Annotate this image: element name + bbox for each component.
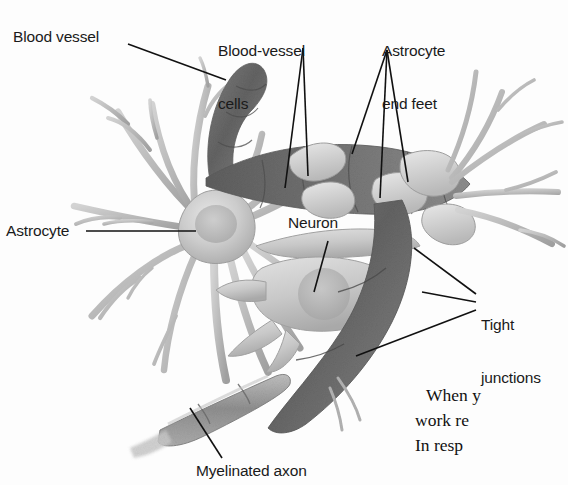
axon-tail-fade [130, 430, 172, 458]
label-neuron: Neuron [288, 214, 338, 232]
label-tight-junctions-line2: junctions [481, 369, 541, 387]
label-myelinated-axon: Myelinated axon [196, 462, 307, 480]
label-tight-junctions: Tight junctions [481, 281, 541, 421]
label-astrocyte: Astrocyte [6, 222, 69, 240]
label-blood-vessel: Blood vessel [13, 28, 99, 46]
astrocyte-nucleus [195, 205, 237, 243]
label-astrocyte-end-feet: Astrocyte end feet [382, 7, 445, 147]
body-text-line-3: In resp [415, 433, 463, 458]
neuron-nucleus [298, 268, 350, 320]
label-astrocyte-end-feet-line2: end feet [382, 95, 445, 113]
body-text-line-2: work re [415, 408, 469, 433]
label-tight-junctions-line1: Tight [481, 316, 541, 334]
end-foot-2 [302, 182, 355, 218]
leader-tight-junctions-a [414, 248, 476, 294]
myelin-sheath-body [158, 374, 290, 446]
body-text-line-1: When y [426, 383, 481, 408]
label-astrocyte-end-feet-line1: Astrocyte [382, 42, 445, 60]
neuron-dendrite-left [216, 280, 266, 301]
label-blood-vessel-cells-line1: Blood-vessel [218, 42, 305, 60]
figure-page: Blood vessel Blood-vessel cells Astrocyt… [0, 0, 568, 485]
neuron-dendrite-lower-left [228, 320, 282, 356]
myelinated-axon [130, 374, 290, 458]
label-blood-vessel-cells-line2: cells [218, 95, 305, 113]
leader-tight-junctions-b [422, 292, 476, 302]
label-blood-vessel-cells: Blood-vessel cells [218, 7, 305, 147]
leader-blood-vessel [128, 44, 226, 80]
